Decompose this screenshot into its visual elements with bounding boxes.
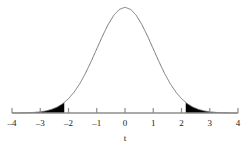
x-tick-label-neg3: –3 [30,118,50,128]
x-tick-label-0: 0 [115,118,135,128]
x-tick-label-neg1: –1 [87,118,107,128]
x-axis-title: t [115,133,135,143]
x-tick-label-neg2: –2 [59,118,79,128]
x-tick-label-2: 2 [172,118,192,128]
x-tick-label-4: 4 [228,118,248,128]
density-curve [12,7,238,113]
x-tick-label-neg4: –4 [2,118,22,128]
x-tick-label-1: 1 [143,118,163,128]
x-tick-label-3: 3 [200,118,220,128]
t-distribution-figure: –4–3–2–101234 t [0,0,250,158]
